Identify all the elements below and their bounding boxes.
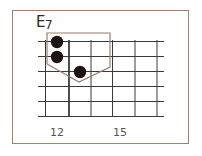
fretboard-diagram xyxy=(0,0,202,156)
finger-dot xyxy=(74,66,86,78)
fret-label-12: 12 xyxy=(45,126,69,139)
finger-dot xyxy=(51,36,63,48)
frets xyxy=(46,40,158,117)
finger-dot xyxy=(51,51,63,63)
fret-label-15: 15 xyxy=(108,126,132,139)
